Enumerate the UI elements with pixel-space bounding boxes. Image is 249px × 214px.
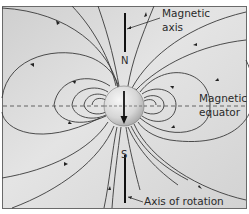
- diagram-canvas: N S Magnetic axis Magnetic equator Axis …: [0, 0, 249, 214]
- magnetic-field-diagram: N S Magnetic axis Magnetic equator Axis …: [0, 0, 249, 214]
- north-pole-label: N: [121, 55, 128, 66]
- south-pole-label: S: [121, 149, 127, 160]
- axis-of-rotation-label: Axis of rotation: [144, 195, 224, 207]
- magnetic-axis-label-line2: axis: [162, 21, 183, 33]
- magnetic-equator-label-line2: equator: [199, 106, 241, 118]
- magnetic-axis-label-line1: Magnetic: [162, 7, 210, 19]
- magnetic-equator-label-line1: Magnetic: [199, 92, 247, 104]
